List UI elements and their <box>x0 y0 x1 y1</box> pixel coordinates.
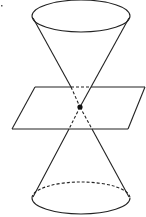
lower-base-front-arc <box>32 198 130 214</box>
plane-right-edge <box>128 87 145 129</box>
upper-right-generator <box>91 18 129 87</box>
upper-base-ellipse <box>32 0 130 32</box>
lower-nappe <box>32 107 130 214</box>
upper-left-generator <box>33 18 71 87</box>
upper-nappe <box>32 0 130 107</box>
vertex-point <box>77 104 82 109</box>
upper-right-generator-front <box>80 87 91 107</box>
lower-right-generator <box>92 129 129 197</box>
lower-right-generator-hidden <box>80 107 92 129</box>
lower-left-generator-hidden <box>69 107 80 129</box>
lower-base-back-arc <box>32 182 130 198</box>
lower-left-generator <box>33 129 69 197</box>
upper-left-generator-hidden <box>71 87 80 107</box>
double-cone-diagram <box>0 0 146 217</box>
plane-left-edge <box>12 87 35 129</box>
speck-mark <box>1 5 3 7</box>
